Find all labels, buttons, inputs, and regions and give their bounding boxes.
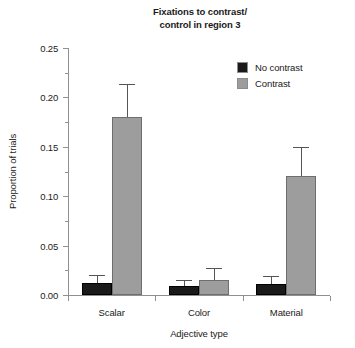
bar xyxy=(112,117,142,295)
bar xyxy=(286,176,316,295)
error-bar-stem xyxy=(127,84,128,118)
y-axis-tick xyxy=(63,48,68,49)
error-bar-stem xyxy=(214,268,215,280)
y-axis-tick-label: 0.15 xyxy=(40,141,58,152)
x-axis-category-label: Material xyxy=(270,307,303,318)
y-axis-minor-tick xyxy=(65,172,68,173)
y-axis-tick-label: 0.05 xyxy=(40,240,58,251)
bar xyxy=(169,286,199,295)
y-axis-tick xyxy=(63,147,68,148)
y-axis-minor-tick xyxy=(65,221,68,222)
y-axis-tick-label: 0.00 xyxy=(40,290,58,301)
plot-area: 0.000.050.100.150.200.25 xyxy=(68,48,330,295)
x-axis-tick xyxy=(330,296,331,301)
bar-chart-figure: Fixations to contrast/ control in region… xyxy=(0,0,355,348)
y-axis-title: Proportion of trials xyxy=(6,48,20,295)
error-bar-stem xyxy=(301,147,302,177)
error-bar-stem xyxy=(271,276,272,284)
x-axis-line xyxy=(68,295,330,296)
error-bar-stem xyxy=(97,275,98,283)
bar xyxy=(199,280,229,295)
error-bar-cap xyxy=(89,275,105,276)
x-axis-tick xyxy=(155,296,156,301)
x-axis-tick xyxy=(68,296,69,301)
x-axis-tick xyxy=(243,296,244,301)
error-bar-cap xyxy=(293,147,309,148)
x-axis-category-label: Color xyxy=(188,307,210,318)
y-axis-tick xyxy=(63,97,68,98)
x-axis-title: Adjective type xyxy=(68,328,330,339)
y-axis-line xyxy=(68,48,69,296)
y-axis-minor-tick xyxy=(65,73,68,74)
x-axis-category-label: Scalar xyxy=(98,307,124,318)
error-bar-cap xyxy=(206,268,222,269)
error-bar-cap xyxy=(176,280,192,281)
chart-title: Fixations to contrast/ control in region… xyxy=(60,6,340,31)
y-axis-title-text: Proportion of trials xyxy=(8,134,19,209)
error-bar-cap xyxy=(263,276,279,277)
y-axis-tick-label: 0.10 xyxy=(40,191,58,202)
bar xyxy=(256,284,286,295)
y-axis-tick xyxy=(63,246,68,247)
error-bar-cap xyxy=(119,84,135,85)
y-axis-minor-tick xyxy=(65,122,68,123)
y-axis-tick-label: 0.25 xyxy=(40,43,58,54)
y-axis-tick-label: 0.20 xyxy=(40,92,58,103)
y-axis-minor-tick xyxy=(65,270,68,271)
bar xyxy=(82,283,112,295)
y-axis-tick xyxy=(63,196,68,197)
